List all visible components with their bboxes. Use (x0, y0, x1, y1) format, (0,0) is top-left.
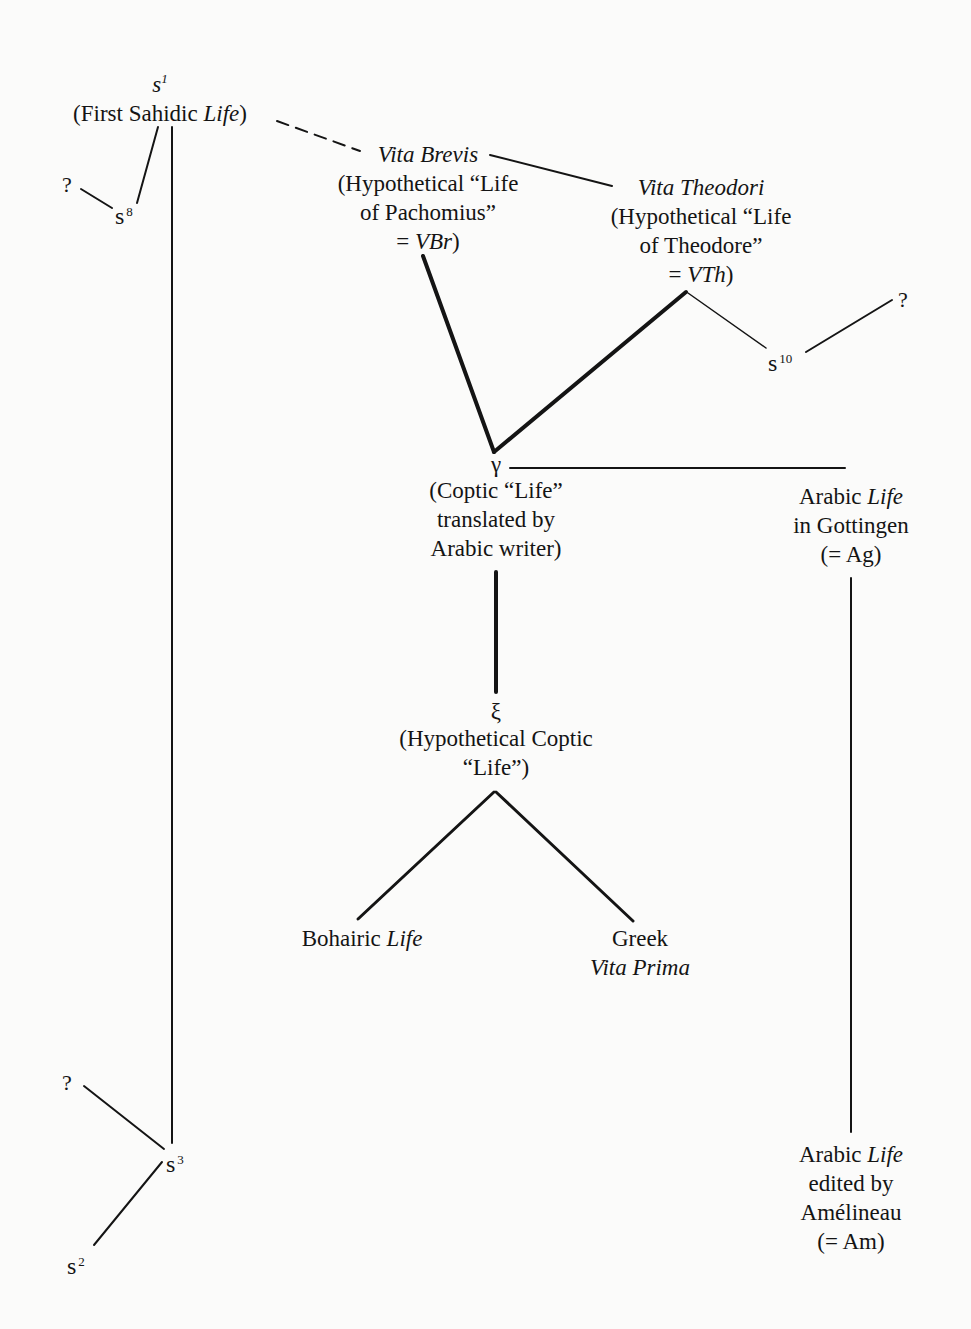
symbol-xi: ξ (399, 700, 593, 724)
title-vita-brevis: Vita Brevis (338, 140, 519, 169)
node-s3: s3 (166, 1152, 184, 1176)
label-line: Arabic writer) (429, 534, 562, 563)
title-vita-theodori: Vita Theodori (611, 173, 792, 202)
unknown-source-s10: ? (898, 289, 908, 311)
label-line: “Life”) (399, 753, 593, 782)
label-line: (Hypothetical “Life (611, 202, 792, 231)
node-xi: ξ (Hypothetical Coptic “Life”) (399, 700, 593, 782)
label-line: Amélineau (799, 1198, 903, 1227)
abbr-vbr: = VBr) (338, 227, 519, 256)
label-line: translated by (429, 505, 562, 534)
siglum-s1: s1 (73, 64, 247, 99)
node-s2: s2 (67, 1254, 85, 1278)
edge-s10-q (806, 300, 892, 352)
node-s1: s1 (First Sahidic Life) (73, 64, 247, 128)
label-line: (Hypothetical “Life (338, 169, 519, 198)
abbr-am: (= Am) (799, 1227, 903, 1256)
edge-vbr-gamma (423, 256, 494, 452)
node-s8: s8 (115, 204, 133, 228)
node-arabic-life-gottingen: Arabic Life in Gottingen (= Ag) (793, 482, 909, 569)
label-line: Vita Prima (590, 953, 690, 982)
node-arabic-life-amelineau: Arabic Life edited by Amélineau (= Am) (799, 1140, 903, 1256)
label-first-sahidic-life: (First Sahidic Life) (73, 99, 247, 128)
unknown-source-s8: ? (62, 174, 72, 196)
label-line: in Gottingen (793, 511, 909, 540)
edge-xi-greek (496, 792, 633, 921)
label-line: edited by (799, 1169, 903, 1198)
node-greek-vita-prima: Greek Vita Prima (590, 924, 690, 982)
label-line: Greek (590, 924, 690, 953)
abbr-ag: (= Ag) (793, 540, 909, 569)
edge-vth-gamma (494, 292, 686, 452)
node-bohairic-life: Bohairic Life (302, 924, 423, 953)
label-line: (Hypothetical Coptic (399, 724, 593, 753)
edge-s3-s2 (94, 1162, 162, 1245)
edge-q-s8 (81, 189, 112, 208)
label-line: of Pachomius” (338, 198, 519, 227)
node-vita-theodori: Vita Theodori (Hypothetical “Life of The… (611, 173, 792, 289)
edge-xi-bohairic (358, 792, 494, 919)
edge-s1-s8 (137, 127, 158, 203)
label-line: Arabic Life (799, 1140, 903, 1169)
unknown-source-s3: ? (62, 1072, 72, 1094)
label-line: of Theodore” (611, 231, 792, 260)
edge-vth-s10 (688, 293, 766, 348)
abbr-vth: = VTh) (611, 260, 792, 289)
label-line: (Coptic “Life” (429, 476, 562, 505)
edge-q-s3 (84, 1086, 164, 1149)
label-line: Arabic Life (793, 482, 909, 511)
symbol-gamma: γ (429, 454, 562, 476)
node-s10: s10 (768, 351, 792, 375)
node-gamma: γ (Coptic “Life” translated by Arabic wr… (429, 454, 562, 563)
node-vita-brevis: Vita Brevis (Hypothetical “Life of Pacho… (338, 140, 519, 256)
